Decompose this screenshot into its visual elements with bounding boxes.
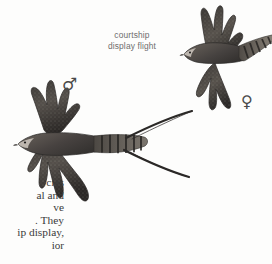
callout-line-2: display flight bbox=[92, 41, 172, 52]
male-tail bbox=[94, 134, 148, 153]
body-text-line: ior bbox=[0, 239, 64, 252]
body-text-line: cies bbox=[0, 176, 64, 189]
body-text-line: . They bbox=[0, 214, 64, 227]
illustration-plate: courtship display flight ♂ ♀ cies al and… bbox=[0, 0, 272, 264]
callout-line-1: courtship bbox=[92, 30, 172, 41]
female-tail bbox=[239, 35, 272, 61]
female-lower-wing bbox=[196, 63, 230, 110]
body-text-clipped: cies al and ve . They ip display, ior bbox=[0, 176, 64, 252]
body-text-line: ve bbox=[0, 201, 64, 214]
bird-female-illustration bbox=[176, 0, 272, 112]
male-body bbox=[13, 133, 107, 156]
body-text-line: al and bbox=[0, 189, 64, 202]
male-symbol: ♂ bbox=[62, 76, 77, 93]
callout-courtship-display-flight: courtship display flight bbox=[92, 30, 172, 51]
body-text-line: ip display, bbox=[0, 226, 64, 239]
female-symbol: ♀ bbox=[241, 94, 253, 110]
